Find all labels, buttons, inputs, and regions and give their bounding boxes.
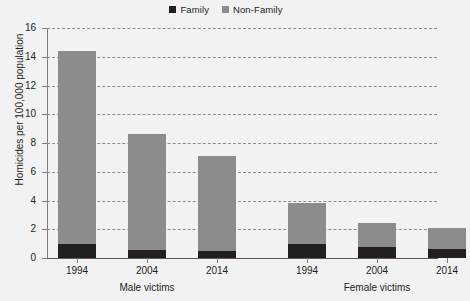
x-tick-mark (217, 258, 218, 263)
y-tick-label-2: 2 (0, 224, 36, 234)
bar-segment-non-family (198, 156, 236, 251)
bar-segment-family (358, 247, 396, 258)
y-tick-label-12: 12 (0, 81, 36, 91)
y-tick-label-6: 6 (0, 167, 36, 177)
y-tick-label-8: 8 (0, 138, 36, 148)
bar-segment-family (288, 244, 326, 258)
bar-segment-family (128, 250, 166, 258)
y-tick-label-10: 10 (0, 109, 36, 119)
legend-item-family[interactable]: Family (169, 5, 209, 15)
bar-female-1994[interactable] (288, 28, 326, 258)
x-axis-line (47, 258, 438, 259)
legend-item-non-family[interactable]: Non-Family (222, 5, 283, 15)
bar-female-2014[interactable] (428, 28, 466, 258)
x-tick-mark (377, 258, 378, 263)
group-caption-male-victims: Male victims (67, 283, 227, 293)
x-tick-label-male-2004: 2004 (117, 266, 177, 276)
bar-female-2004[interactable] (358, 28, 396, 258)
bar-segment-non-family (358, 223, 396, 247)
x-tick-mark (77, 258, 78, 263)
x-tick-label-male-1994: 1994 (47, 266, 107, 276)
x-tick-mark (447, 258, 448, 263)
bar-male-1994[interactable] (58, 28, 96, 258)
bar-segment-non-family (288, 203, 326, 244)
y-tick-label-14: 14 (0, 52, 36, 62)
bar-stack (58, 51, 96, 258)
legend-label-non-family: Non-Family (233, 5, 283, 15)
x-tick-label-female-2004: 2004 (347, 266, 407, 276)
bar-segment-non-family (58, 51, 96, 244)
bar-stack (358, 223, 396, 258)
legend-label-family: Family (180, 5, 209, 15)
x-tick-label-female-2014: 2014 (417, 266, 470, 276)
bar-segment-family (198, 251, 236, 258)
bar-segment-non-family (428, 228, 466, 249)
x-tick-label-male-2014: 2014 (187, 266, 247, 276)
bar-male-2004[interactable] (128, 28, 166, 258)
bar-segment-non-family (128, 134, 166, 250)
bar-male-2014[interactable] (198, 28, 236, 258)
x-tick-label-female-1994: 1994 (277, 266, 337, 276)
y-tick-label-0: 0 (0, 253, 36, 263)
x-tick-mark (307, 258, 308, 263)
group-caption-female-victims: Female victims (297, 283, 457, 293)
bar-stack (128, 134, 166, 258)
legend-swatch-family (169, 6, 176, 13)
y-tick-label-4: 4 (0, 196, 36, 206)
bar-segment-family (428, 249, 466, 258)
bar-stack (428, 228, 466, 258)
plot-area (47, 28, 437, 258)
bar-stack (198, 156, 236, 258)
chart-legend: Family Non-Family (0, 5, 452, 15)
x-tick-mark (147, 258, 148, 263)
bar-segment-family (58, 244, 96, 258)
bar-stack (288, 203, 326, 258)
y-tick-label-16: 16 (0, 23, 36, 33)
legend-swatch-non-family (222, 6, 229, 13)
